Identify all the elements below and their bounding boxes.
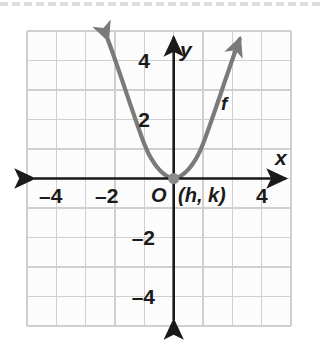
origin-label: O [151,184,167,206]
graph-figure: –4 –2 4 4 2 –2 –4 O (h, k) f x y [0,0,320,349]
xtick-label-4: 4 [256,184,268,207]
x-axis-label: x [274,146,288,169]
xtick-label--4: –4 [39,184,63,207]
vertex-label: (h, k) [178,184,226,206]
vertex-point [168,173,179,184]
ytick-label-2: 2 [138,108,150,131]
xtick-label--2: –2 [95,184,118,207]
coordinate-plane: –4 –2 4 4 2 –2 –4 O (h, k) f x y [0,0,320,349]
ytick-label-4: 4 [138,49,150,72]
ytick-label--2: –2 [132,226,155,249]
y-axis-label: y [179,38,193,61]
ytick-label--4: –4 [132,285,156,308]
